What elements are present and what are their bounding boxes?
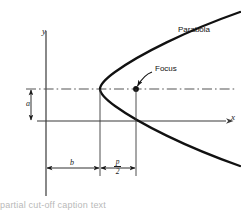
dimension-label-a: a <box>26 100 30 108</box>
figure-caption: partial cut-off caption text <box>0 200 241 211</box>
x-axis-label: x <box>231 113 235 122</box>
dimension-label-b: b <box>70 159 74 167</box>
y-axis-label: y <box>42 27 46 36</box>
parabola-figure: y x Parabola Focus a b p 2 partial cut-o… <box>0 0 241 211</box>
focus-label: Focus <box>155 65 177 73</box>
half-p-denominator: 2 <box>115 167 121 175</box>
parabola-label: Parabola <box>178 26 210 34</box>
focus-leader-line <box>138 72 153 86</box>
dimension-label-half-p: p 2 <box>114 158 121 175</box>
half-p-numerator: p <box>115 158 121 166</box>
